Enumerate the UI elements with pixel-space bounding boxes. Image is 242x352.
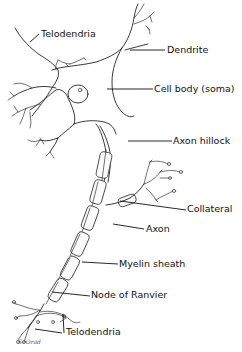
label-collateral: Collateral [187, 203, 232, 214]
label-axon: Axon [146, 223, 170, 234]
leader-collateral [120, 201, 186, 210]
myelin-sheath-segments [46, 150, 113, 304]
nucleolus [78, 88, 82, 92]
label-myelin-sheath: Myelin sheath [119, 258, 185, 269]
cell-body [30, 48, 134, 138]
label-node-of-ranvier: Node of Ranvier [91, 289, 167, 300]
neuron-diagram: Telodendria Dendrite Cell body (soma) Ax… [0, 0, 242, 352]
leader-axon [113, 224, 144, 229]
label-telodendria-bottom: Telodendria [66, 326, 121, 337]
label-telodendria-top: Telodendria [41, 28, 96, 39]
artist-signature: S. Orad [18, 338, 41, 345]
label-cell-body: Cell body (soma) [154, 83, 235, 94]
label-dendrite: Dendrite [167, 44, 208, 55]
nucleus [68, 85, 88, 103]
dendrite-top-right [122, 4, 154, 50]
leader-telodendria-bottom [35, 314, 64, 333]
leader-telodendria-top [30, 34, 39, 42]
label-axon-hillock: Axon hillock [173, 135, 230, 146]
collateral-branch [106, 160, 183, 208]
leader-myelin-sheath [82, 262, 118, 264]
